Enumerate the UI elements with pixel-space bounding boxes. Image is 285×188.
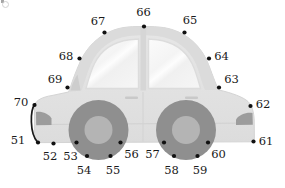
keypoint-label-63: 63: [224, 74, 239, 86]
keypoint-dot-62[interactable]: [248, 104, 252, 108]
keypoint-dot-69[interactable]: [65, 85, 69, 89]
keypoint-dot-61[interactable]: [251, 139, 255, 143]
keypoint-dot-58[interactable]: [172, 154, 176, 158]
keypoint-label-64: 64: [214, 51, 229, 63]
keypoint-label-59: 59: [193, 165, 208, 177]
keypoint-dot-66[interactable]: [142, 24, 146, 28]
keypoint-label-61: 61: [259, 136, 274, 148]
keypoint-label-56: 56: [124, 149, 139, 161]
keypoint-dot-60[interactable]: [206, 140, 210, 144]
keypoint-label-55: 55: [106, 165, 121, 177]
keypoint-dot-70[interactable]: [32, 103, 36, 107]
keypoint-dot-64[interactable]: [207, 56, 211, 60]
keypoint-label-53: 53: [63, 151, 78, 163]
keypoint-label-65: 65: [183, 15, 198, 27]
keypoint-label-54: 54: [77, 165, 92, 177]
keypoint-dot-51[interactable]: [36, 140, 40, 144]
keypoint-dot-68[interactable]: [77, 56, 81, 60]
b-pillar: [141, 27, 147, 91]
keypoint-dot-59[interactable]: [195, 154, 199, 158]
front-door-handle: [125, 97, 138, 100]
keypoint-dot-53[interactable]: [74, 140, 78, 144]
keypoint-label-62: 62: [256, 99, 271, 111]
rear-door-handle: [185, 97, 198, 100]
keypoint-dot-52[interactable]: [51, 141, 55, 145]
keypoint-label-67: 67: [91, 16, 106, 28]
keypoint-dot-54[interactable]: [85, 154, 89, 158]
rear-wheel: [156, 100, 216, 160]
keypoint-label-69: 69: [48, 74, 63, 86]
keypoint-label-58: 58: [164, 165, 179, 177]
keypoint-label-57: 57: [145, 149, 160, 161]
keypoint-dot-56[interactable]: [118, 140, 122, 144]
keypoint-dot-63[interactable]: [217, 85, 221, 89]
keypoint-dot-65[interactable]: [182, 30, 186, 34]
keypoint-label-66: 66: [136, 7, 151, 19]
figure-canvas: 5152535455565758596061626364656667686970: [0, 0, 285, 188]
keypoint-label-51: 51: [11, 135, 26, 147]
keypoint-dot-67[interactable]: [102, 30, 106, 34]
keypoint-label-70: 70: [14, 97, 29, 109]
keypoint-dot-57[interactable]: [162, 140, 166, 144]
keypoint-label-52: 52: [43, 151, 58, 163]
keypoint-label-60: 60: [211, 149, 226, 161]
keypoint-dot-55[interactable]: [108, 154, 112, 158]
keypoint-label-68: 68: [59, 51, 74, 63]
